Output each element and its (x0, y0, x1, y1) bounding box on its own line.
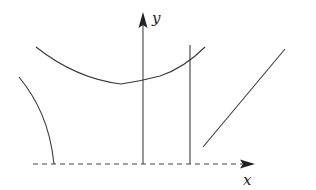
function-diagram: x y (0, 0, 316, 190)
x-axis-label: x (243, 171, 252, 189)
upper-curve (36, 47, 205, 84)
diagonal-line (203, 49, 285, 147)
left-curve (19, 77, 54, 164)
y-axis-label: y (151, 9, 161, 27)
